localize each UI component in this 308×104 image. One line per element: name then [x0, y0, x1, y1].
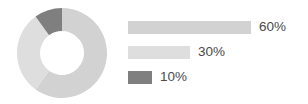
- donut-chart-svg: [15, 6, 109, 100]
- donut-chart: [15, 6, 109, 100]
- legend-swatch-bar-60: [128, 21, 251, 34]
- legend-item-30[interactable]: 30%: [128, 41, 225, 63]
- legend-label-10: 10%: [160, 70, 187, 84]
- donut-hole: [41, 32, 84, 75]
- legend-item-60[interactable]: 60%: [128, 16, 286, 38]
- legend-swatch-bar-30: [128, 46, 190, 59]
- legend-label-60: 60%: [259, 20, 286, 34]
- legend-item-10[interactable]: 10%: [128, 66, 187, 88]
- legend-swatch-bar-10: [128, 71, 152, 84]
- donut-chart-figure: 60% 30% 10%: [0, 0, 308, 104]
- chart-legend: 60% 30% 10%: [128, 14, 306, 90]
- legend-label-30: 30%: [198, 45, 225, 59]
